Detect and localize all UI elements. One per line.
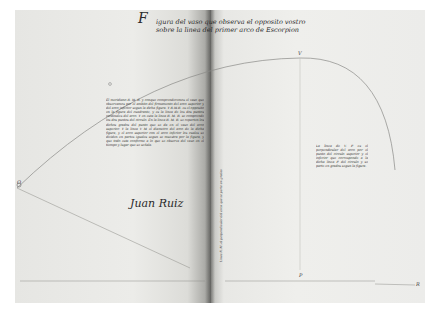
- diagram: [0, 0, 435, 313]
- heading-line-2: sobre la linea del primer arco de Escorp…: [150, 26, 340, 34]
- label-bottom-point: P: [299, 272, 302, 278]
- label-top-point: V: [298, 50, 302, 56]
- main-text-block: El meridiano R. M. R. y conque comprende…: [106, 98, 204, 188]
- label-right-end: R: [416, 281, 420, 287]
- label-left-point: O: [17, 179, 21, 185]
- vertical-note: Linea R. M. el perpendicular del arco qu…: [219, 187, 227, 262]
- heading-initial: F: [138, 14, 148, 22]
- page-heading: F igura del vaso que observa el opposito…: [150, 18, 340, 34]
- signature: Juan Ruiz: [130, 197, 183, 210]
- side-note: La linea de V. P. es el perpendicular de…: [316, 144, 368, 180]
- heading-line-1: igura del vaso que observa el opposito v…: [150, 18, 340, 26]
- baseline-extension: [375, 284, 415, 285]
- diagonal-end-marker: [109, 83, 112, 86]
